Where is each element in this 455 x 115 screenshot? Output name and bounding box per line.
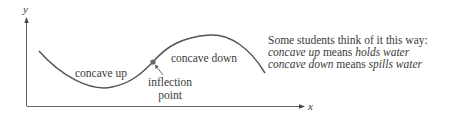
note-connector: means — [333, 58, 368, 70]
y-axis-arrow-icon — [24, 17, 28, 23]
concave-down-label: concave down — [171, 53, 237, 65]
note-meaning-holds-water: holds water — [355, 46, 409, 58]
concave-up-label: concave up — [75, 68, 127, 80]
y-axis-label: y — [23, 4, 28, 15]
note-line-concave-down: concave down means spills water — [268, 58, 428, 70]
note-meaning-spills-water: spills water — [369, 58, 422, 70]
note-line-concave-up: concave up means holds water — [268, 46, 428, 58]
note-connector: means — [320, 46, 355, 58]
x-axis-arrow-icon — [299, 104, 305, 108]
note-heading: Some students think of it this way: — [268, 34, 428, 46]
note-term-concave-up: concave up — [268, 46, 320, 58]
inflection-point-marker — [150, 59, 155, 64]
inflection-label-line2: point — [148, 89, 192, 102]
inflection-label-line1: inflection — [148, 76, 192, 89]
note-term-concave-down: concave down — [268, 58, 333, 70]
concavity-mnemonic-note: Some students think of it this way: conc… — [268, 34, 428, 70]
inflection-point-label: inflection point — [148, 76, 192, 102]
x-axis-label: x — [308, 101, 313, 112]
